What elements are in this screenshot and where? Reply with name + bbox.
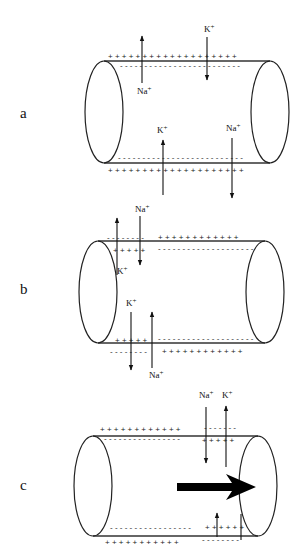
- axon-left-end: [79, 241, 117, 343]
- panel-label: c: [20, 477, 27, 493]
- panel-a: a+ + + + + + + + + + + + + + + + + + +- …: [20, 23, 289, 198]
- charge-row-top-inner: + + + + +: [113, 246, 146, 255]
- ion-label-sodium: Na+: [135, 203, 150, 214]
- panel-label: b: [20, 281, 28, 297]
- axon-right-end: [251, 61, 289, 163]
- ion-label-sodium: Na+: [226, 122, 241, 133]
- axon-diagram: a+ + + + + + + + + + + + + + + + + + +- …: [0, 0, 301, 559]
- axon-right-end: [246, 241, 284, 343]
- panel-label: a: [20, 105, 27, 121]
- charge-row-bottom-outer: + + + + + + + + + + + + + + + + + + + +: [108, 166, 244, 175]
- propagation-arrow-icon: [177, 474, 256, 500]
- ion-label-potassium: K+: [222, 389, 233, 400]
- axon-left-end: [74, 436, 112, 536]
- panel-b: b- - - - - - - -+ + + + + + + + + + + ++…: [20, 203, 284, 380]
- charge-row-top-outer: + + + + + + + + + + + +: [100, 425, 181, 434]
- ion-label-sodium: Na+: [137, 85, 152, 96]
- charge-row-top-outer: - - - - - - - -: [107, 233, 144, 242]
- ion-label-sodium: Na+: [149, 369, 164, 380]
- charge-row-top-outer: - - - - - - -: [204, 423, 236, 432]
- charge-row-bottom-outer: + + + + + + + + + + + +: [162, 347, 243, 356]
- charge-row-bottom-inner: + + + + + +: [205, 523, 244, 532]
- charge-row-bottom-inner: - - - - - - - - - - - - - - - - - - - - …: [118, 153, 243, 162]
- ion-label-potassium: K+: [117, 265, 128, 276]
- axon-left-end: [85, 61, 123, 163]
- ion-label-sodium: Na+: [199, 389, 214, 400]
- charge-row-bottom-outer: - - - - - - - -: [202, 535, 239, 544]
- charge-row-bottom-outer: + + + + + + + + + + +: [105, 538, 179, 547]
- ion-label-potassium: K+: [157, 124, 168, 135]
- charge-row-top-inner: + + + + +: [202, 436, 235, 445]
- charge-row-top-inner: - - - - - - - - - - - - - - - - - - - - …: [120, 61, 240, 70]
- charge-row-bottom-outer: - - - - - - - -: [110, 347, 147, 356]
- charge-row-top-outer: + + + + + + + + + + + +: [158, 233, 239, 242]
- charge-row-bottom-inner: - - - - - - - - - - - - - - - - -: [110, 523, 191, 532]
- charge-row-top-inner: - - - - - - - - - - - - - - - - - - - -: [158, 244, 254, 253]
- charge-row-top-inner: - - - - - - - - - - - - - - - -: [104, 434, 180, 443]
- ion-label-potassium: K+: [204, 23, 215, 34]
- panel-c: c+ + + + + + + + + + + +- - - - - - -- -…: [20, 389, 277, 547]
- charge-row-bottom-inner: - - - - - - - - - - - - - - - - - - - -: [158, 334, 254, 343]
- charge-row-top-outer: + + + + + + + + + + + + + + + + + + +: [108, 52, 237, 61]
- ion-label-potassium: K+: [126, 297, 137, 308]
